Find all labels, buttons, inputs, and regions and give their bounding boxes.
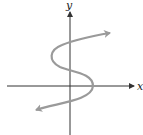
y-axis-label: y bbox=[65, 0, 73, 12]
s-curve bbox=[36, 33, 110, 110]
x-axis-label: x bbox=[137, 80, 143, 93]
curve-diagram: y x bbox=[0, 0, 143, 135]
